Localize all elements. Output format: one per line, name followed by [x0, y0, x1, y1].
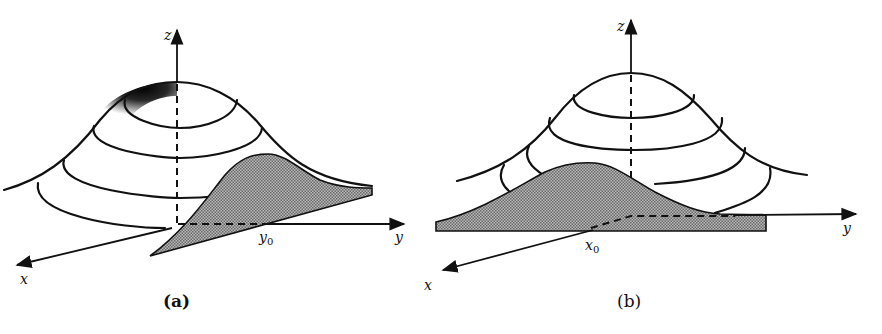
x-axis: [17, 228, 172, 265]
bell-outline: [4, 82, 372, 190]
shaded-cap: [100, 82, 177, 120]
figure-canvas: z y x y0 (a) z y x x0 (b): [0, 0, 882, 334]
contour-ring-3: [63, 160, 220, 198]
slice-label-y0: y0: [258, 229, 273, 247]
y-axis-label: y: [842, 220, 852, 236]
caption-b: (b): [617, 291, 641, 311]
x-axis-label: x: [424, 277, 432, 293]
contour-ring-1: [574, 95, 694, 118]
y-axis-label: y: [394, 229, 404, 245]
x-axis-label: x: [20, 271, 28, 287]
slice-label-x0: x0: [585, 237, 599, 255]
panel-a: z y x y0 (a): [4, 27, 404, 311]
x-axis: [443, 230, 593, 270]
contour-ring-2: [93, 126, 262, 158]
contour-ring-4: [38, 183, 165, 228]
panel-b: z y x x0 (b): [424, 18, 856, 311]
caption-a: (a): [163, 291, 190, 311]
contour-ring-2: [549, 118, 722, 150]
z-axis-label: z: [616, 18, 625, 34]
slice-x0: [436, 163, 766, 231]
z-axis-label: z: [163, 27, 172, 43]
y-axis: [735, 214, 856, 215]
